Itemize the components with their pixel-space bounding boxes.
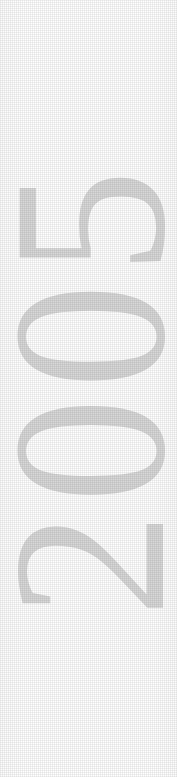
scanned-page: 2005 [0, 0, 177, 777]
year-label: 2005 [0, 160, 177, 617]
vertical-year-marker: 2005 [0, 0, 177, 777]
